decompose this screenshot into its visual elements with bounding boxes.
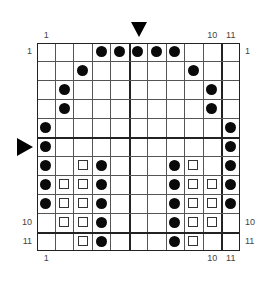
grid-cell xyxy=(73,175,91,194)
row-label-left: 10 xyxy=(22,218,32,227)
grid-cell xyxy=(184,232,202,251)
grid-cell xyxy=(37,156,55,175)
filled-circle-icon xyxy=(169,179,180,190)
grid-cell xyxy=(166,213,184,232)
open-square-icon xyxy=(207,179,217,189)
grid-cell xyxy=(221,137,239,156)
open-square-icon xyxy=(59,179,69,189)
grid-cell xyxy=(92,175,110,194)
filled-circle-icon xyxy=(169,236,180,247)
grid xyxy=(37,43,240,251)
grid-cell xyxy=(73,61,91,80)
grid-cell xyxy=(55,80,73,99)
open-square-icon xyxy=(59,217,69,227)
filled-circle-icon xyxy=(225,198,236,209)
grid-cell xyxy=(203,194,221,213)
filled-circle-icon xyxy=(96,160,107,171)
filled-circle-icon xyxy=(77,65,88,76)
filled-circle-icon xyxy=(151,46,162,57)
grid-cell xyxy=(184,156,202,175)
row-label-right: 10 xyxy=(245,218,255,227)
grid-cell xyxy=(92,156,110,175)
filled-circle-icon xyxy=(40,198,51,209)
open-square-icon xyxy=(78,217,88,227)
open-square-icon xyxy=(59,198,69,208)
filled-circle-icon xyxy=(96,198,107,209)
open-square-icon xyxy=(188,179,198,189)
grid-cell xyxy=(73,194,91,213)
grid-cell xyxy=(55,99,73,118)
grid-line-horizontal xyxy=(38,232,239,234)
grid-cell xyxy=(37,118,55,137)
grid-line-vertical xyxy=(129,44,131,250)
filled-circle-icon xyxy=(225,179,236,190)
grid-cell xyxy=(203,213,221,232)
grid-cell xyxy=(37,175,55,194)
grid-cell xyxy=(221,194,239,213)
grid-cell xyxy=(184,175,202,194)
filled-circle-icon xyxy=(225,141,236,152)
grid-cell xyxy=(203,80,221,99)
grid-cell xyxy=(129,43,147,62)
column-label-bottom: 11 xyxy=(226,254,235,263)
grid-cell xyxy=(92,213,110,232)
triangle-down-icon xyxy=(131,22,147,37)
filled-circle-icon xyxy=(96,217,107,228)
filled-circle-icon xyxy=(40,122,51,133)
grid-cell xyxy=(184,194,202,213)
grid-cell xyxy=(73,232,91,251)
filled-circle-icon xyxy=(132,46,143,57)
filled-circle-icon xyxy=(40,160,51,171)
grid-cell xyxy=(55,194,73,213)
filled-circle-icon xyxy=(40,141,51,152)
filled-circle-icon xyxy=(40,179,51,190)
grid-line-vertical xyxy=(147,44,148,250)
column-label-top: 1 xyxy=(44,31,49,40)
grid-line-vertical xyxy=(110,44,111,250)
open-square-icon xyxy=(78,236,88,246)
filled-circle-icon xyxy=(96,46,107,57)
row-label-left: 11 xyxy=(23,237,32,246)
grid-line-horizontal xyxy=(38,156,239,157)
grid-cell xyxy=(147,43,165,62)
grid-cell xyxy=(184,213,202,232)
filled-circle-icon xyxy=(96,179,107,190)
grid-cell xyxy=(166,43,184,62)
grid-cell xyxy=(166,194,184,213)
column-label-top: 10 xyxy=(207,31,217,40)
filled-circle-icon xyxy=(114,46,125,57)
open-square-icon xyxy=(188,217,198,227)
row-label-right: 1 xyxy=(245,47,250,56)
grid-line-horizontal xyxy=(38,118,239,119)
filled-circle-icon xyxy=(169,46,180,57)
grid-cell xyxy=(184,61,202,80)
grid-cell xyxy=(166,156,184,175)
grid-cell xyxy=(55,213,73,232)
grid-cell xyxy=(221,156,239,175)
filled-circle-icon xyxy=(206,84,217,95)
grid-cell xyxy=(203,99,221,118)
column-label-top: 11 xyxy=(226,31,235,40)
grid-cell xyxy=(73,213,91,232)
puzzle-diagram: 11011110111101111011 xyxy=(0,0,265,284)
grid-cell xyxy=(92,43,110,62)
column-label-bottom: 1 xyxy=(44,254,49,263)
filled-circle-icon xyxy=(225,160,236,171)
open-square-icon xyxy=(188,198,198,208)
filled-circle-icon xyxy=(169,198,180,209)
grid-line-horizontal xyxy=(38,61,239,62)
grid-cell xyxy=(203,175,221,194)
open-square-icon xyxy=(78,198,88,208)
filled-circle-icon xyxy=(169,217,180,228)
column-label-bottom: 10 xyxy=(207,254,217,263)
filled-circle-icon xyxy=(59,84,70,95)
grid-cell xyxy=(55,175,73,194)
grid-cell xyxy=(166,232,184,251)
grid-cell xyxy=(166,175,184,194)
grid-cell xyxy=(92,232,110,251)
open-square-icon xyxy=(188,160,198,170)
open-square-icon xyxy=(78,160,88,170)
open-square-icon xyxy=(188,236,198,246)
open-square-icon xyxy=(78,179,88,189)
filled-circle-icon xyxy=(206,103,217,114)
